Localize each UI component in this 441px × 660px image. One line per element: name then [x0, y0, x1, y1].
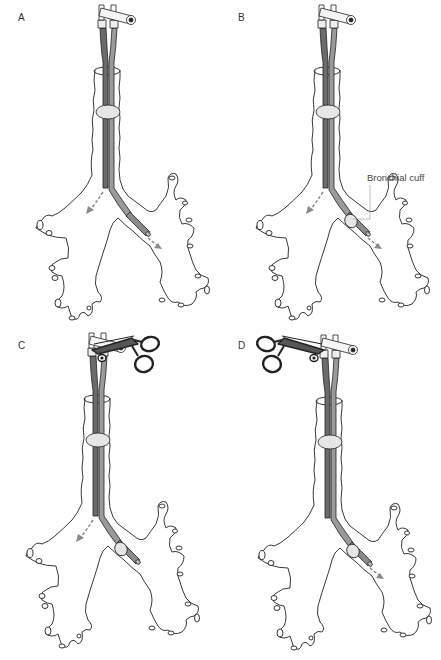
airway-illustration-b — [220, 0, 440, 330]
airway-illustration-c — [0, 330, 220, 660]
bronchial-cuff-label: Bronchial cuff — [367, 172, 424, 183]
panel-b: B Bronchial cuff — [220, 0, 440, 330]
clamp-icon — [255, 335, 324, 374]
panel-c: C — [0, 330, 220, 660]
panel-d: D — [220, 330, 440, 660]
airway-illustration-d — [220, 330, 440, 660]
airway-illustration-a — [0, 0, 220, 330]
panel-a: A — [0, 0, 220, 330]
